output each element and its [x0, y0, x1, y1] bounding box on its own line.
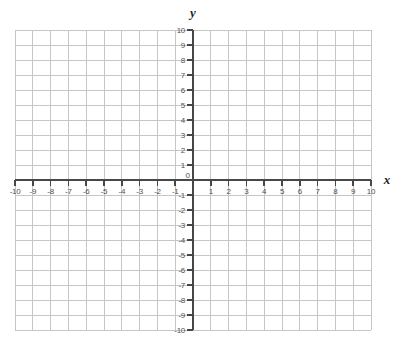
x-axis-tick — [370, 180, 372, 186]
coordinate-plane: -10-9-8-7-6-5-4-3-2-112345678910 1098765… — [0, 0, 404, 354]
grid-area: -10-9-8-7-6-5-4-3-2-112345678910 1098765… — [15, 30, 371, 330]
y-tick-label: -8 — [163, 296, 185, 306]
x-axis-tick — [85, 180, 87, 186]
y-tick-label: -2 — [163, 206, 185, 216]
y-tick-label: -3 — [163, 221, 185, 231]
y-axis-tick — [187, 59, 193, 61]
x-tick-label: 10 — [360, 187, 382, 197]
y-axis-tick — [187, 269, 193, 271]
x-axis-tick — [14, 180, 16, 186]
y-axis-tick — [187, 209, 193, 211]
y-tick-label: -9 — [163, 311, 185, 321]
y-axis-tick — [187, 329, 193, 331]
y-axis-tick — [187, 164, 193, 166]
y-tick-label: -6 — [163, 266, 185, 276]
y-axis-tick — [187, 299, 193, 301]
x-axis-tick — [228, 180, 230, 186]
x-axis-tick — [50, 180, 52, 186]
y-axis-tick — [187, 104, 193, 106]
x-axis-tick — [174, 180, 176, 186]
y-tick-label: 2 — [163, 146, 185, 156]
y-tick-label: -4 — [163, 236, 185, 246]
y-tick-label: -10 — [163, 326, 185, 336]
x-axis-tick — [263, 180, 265, 186]
y-tick-label: -1 — [163, 191, 185, 201]
x-axis-tick — [210, 180, 212, 186]
y-axis-tick — [187, 224, 193, 226]
y-axis-tick — [187, 194, 193, 196]
y-tick-label: 1 — [163, 161, 185, 171]
y-axis-tick — [187, 29, 193, 31]
x-axis-label: x — [379, 172, 395, 187]
y-tick-label: 3 — [163, 131, 185, 141]
y-axis-tick — [187, 314, 193, 316]
y-tick-label: 5 — [163, 101, 185, 111]
x-axis-tick — [281, 180, 283, 186]
y-axis-tick — [187, 134, 193, 136]
y-tick-label: 7 — [163, 71, 185, 81]
x-axis-tick — [317, 180, 319, 186]
x-axis-tick — [335, 180, 337, 186]
x-axis-tick — [299, 180, 301, 186]
y-axis-tick — [187, 119, 193, 121]
y-axis-tick — [187, 89, 193, 91]
x-axis-tick — [352, 180, 354, 186]
y-axis-tick — [187, 239, 193, 241]
y-tick-label: -5 — [163, 251, 185, 261]
x-axis-tick — [139, 180, 141, 186]
y-axis-tick — [187, 74, 193, 76]
origin-label: 0 — [181, 171, 190, 181]
x-axis-tick — [103, 180, 105, 186]
x-axis-tick — [68, 180, 70, 186]
y-tick-label: 4 — [163, 116, 185, 126]
y-axis-label: y — [185, 5, 201, 20]
y-axis-tick — [187, 284, 193, 286]
y-axis-tick — [187, 149, 193, 151]
x-axis-tick — [157, 180, 159, 186]
y-axis-tick — [187, 254, 193, 256]
y-tick-label: -7 — [163, 281, 185, 291]
y-tick-label: 8 — [163, 56, 185, 66]
y-tick-label: 10 — [163, 26, 185, 36]
x-axis-tick — [32, 180, 34, 186]
x-axis-tick — [246, 180, 248, 186]
x-axis-tick — [121, 180, 123, 186]
y-tick-label: 6 — [163, 86, 185, 96]
y-tick-label: 9 — [163, 41, 185, 51]
y-axis-tick — [187, 44, 193, 46]
